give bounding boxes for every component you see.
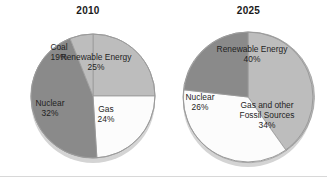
slice-label-pct: 19% — [38, 52, 80, 62]
slice-label-name: Nuclear — [36, 98, 65, 108]
slice-label-coal-2010: Coal 19% — [38, 42, 80, 62]
slice-label-name: Gas — [98, 104, 113, 114]
slice-label-nuclear-2025: Nuclear 26% — [174, 92, 226, 112]
slice-label-pct: 26% — [174, 102, 226, 112]
slice-label-pct: 25% — [60, 62, 132, 72]
slice-label-pct: 40% — [216, 54, 288, 64]
slice-label-nuclear-2010: Nuclear 32% — [24, 98, 76, 118]
pie-slice-nuclear — [184, 32, 248, 97]
pie-svg-2010 — [8, 0, 168, 177]
slice-label-gas-2010: Gas 24% — [86, 104, 126, 124]
slice-label-pct: 34% — [234, 120, 300, 130]
slice-label-name: Gas and other Fossil Sources — [240, 100, 295, 120]
pie-2010 — [8, 0, 168, 177]
two-pie-chart-figure: 2010 Renewable Energy 25% Gas 24% — [0, 0, 327, 177]
slice-label-name: Nuclear — [186, 92, 215, 102]
slice-label-gas-and-other-fossil-sources-2025: Gas and other Fossil Sources 34% — [234, 100, 300, 131]
chart-panel-2010: 2010 Renewable Energy 25% Gas 24% — [8, 0, 168, 177]
slice-label-pct: 32% — [24, 108, 76, 118]
chart-panel-2025: 2025 Renewable Energy 40% Gas and other … — [170, 0, 327, 177]
pie-2025 — [170, 0, 327, 177]
slice-label-pct: 24% — [86, 114, 126, 124]
pie-svg-2025 — [170, 0, 327, 177]
slice-label-name: Coal — [50, 42, 67, 52]
slice-label-name: Renewable Energy — [217, 44, 288, 54]
slice-label-renewable-energy-2025: Renewable Energy 40% — [216, 44, 288, 64]
